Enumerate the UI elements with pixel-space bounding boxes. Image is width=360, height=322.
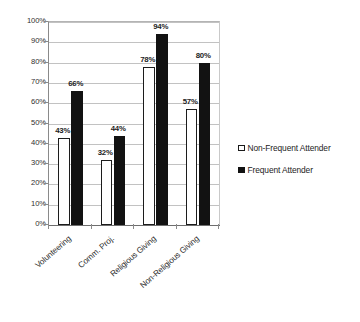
x-axis-tick-mark bbox=[91, 224, 92, 229]
x-axis-tick-mark bbox=[218, 224, 219, 229]
filled-square-icon bbox=[238, 167, 245, 174]
hollow-square-icon bbox=[238, 145, 245, 152]
y-axis-tick-label: 80% bbox=[6, 58, 46, 66]
legend-item-label: Non-Frequent Attender bbox=[248, 143, 331, 153]
x-axis-category-label: Volunteering bbox=[34, 234, 74, 271]
bar-value-label: 80% bbox=[191, 51, 215, 60]
gridline bbox=[49, 22, 219, 23]
bar bbox=[186, 109, 198, 225]
y-axis-tick-label: 40% bbox=[6, 139, 46, 147]
bar-value-label: 78% bbox=[136, 55, 160, 64]
y-axis-tick-label: 90% bbox=[6, 37, 46, 45]
x-axis-baseline bbox=[48, 225, 220, 226]
bar-value-label: 66% bbox=[64, 79, 88, 88]
x-axis-category-label: Comm. Proj. bbox=[76, 234, 116, 271]
bar-value-label: 94% bbox=[149, 22, 173, 31]
legend: Non-Frequent AttenderFrequent Attender bbox=[238, 140, 356, 184]
legend-item[interactable]: Non-Frequent Attender bbox=[238, 140, 356, 156]
x-axis-tick-mark bbox=[133, 224, 134, 229]
y-axis-tick-label: 70% bbox=[6, 78, 46, 86]
y-axis-tick-label: 0% bbox=[6, 220, 46, 228]
gridline bbox=[49, 42, 219, 43]
legend-item[interactable]: Frequent Attender bbox=[238, 162, 356, 178]
y-axis-tick-label: 100% bbox=[6, 17, 46, 25]
bar-value-label: 44% bbox=[106, 124, 130, 133]
gridline bbox=[49, 63, 219, 64]
bar bbox=[58, 138, 70, 225]
bar bbox=[71, 91, 83, 225]
y-axis-tick-label: 20% bbox=[6, 179, 46, 187]
bar-value-label: 32% bbox=[93, 148, 117, 157]
bar bbox=[199, 63, 211, 225]
bar-value-label: 57% bbox=[178, 97, 202, 106]
y-axis-tick-label: 10% bbox=[6, 200, 46, 208]
bar bbox=[101, 160, 113, 225]
y-axis-tick-label: 50% bbox=[6, 119, 46, 127]
y-axis-tick-label: 30% bbox=[6, 159, 46, 167]
bar-value-label: 43% bbox=[51, 126, 75, 135]
legend-item-label: Frequent Attender bbox=[248, 165, 313, 175]
x-axis-tick-mark bbox=[176, 224, 177, 229]
x-axis-tick-mark bbox=[48, 224, 49, 229]
bar-chart: 0%10%20%30%40%50%60%70%80%90%100% 43%66%… bbox=[0, 0, 360, 322]
bar bbox=[143, 67, 155, 225]
y-axis-tick-label: 60% bbox=[6, 98, 46, 106]
